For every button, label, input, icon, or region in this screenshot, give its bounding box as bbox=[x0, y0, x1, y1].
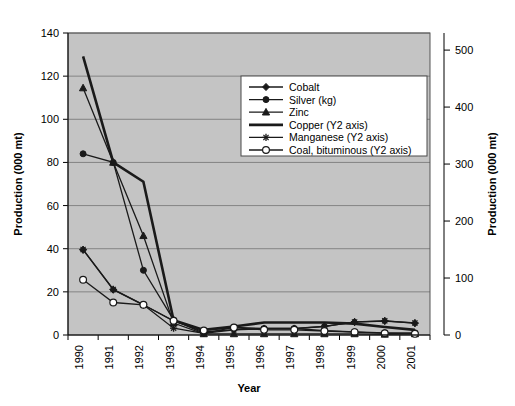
data-point-marker bbox=[110, 286, 117, 293]
star-icon bbox=[262, 134, 269, 141]
legend-label: Cobalt bbox=[289, 81, 319, 93]
legend-label: Coal, bituminous (Y2 axis) bbox=[289, 144, 412, 156]
open-circle-icon bbox=[263, 147, 270, 154]
legend-label: Copper (Y2 axis) bbox=[289, 119, 368, 131]
data-point-marker bbox=[261, 326, 268, 333]
data-point-marker bbox=[321, 328, 328, 335]
x-axis-tick-label: 1993 bbox=[164, 345, 176, 369]
data-point-marker bbox=[231, 324, 238, 331]
y-axis-left-tick-label: 0 bbox=[53, 329, 59, 341]
x-axis-tick-label: 1998 bbox=[314, 345, 326, 369]
y-axis-left-tick-label: 20 bbox=[47, 286, 59, 298]
data-point-marker bbox=[170, 325, 177, 332]
data-point-marker bbox=[140, 267, 146, 273]
x-axis-tick-label: 2000 bbox=[375, 345, 387, 369]
legend-label: Zinc bbox=[289, 106, 309, 118]
x-axis-tick-label: 1996 bbox=[254, 345, 266, 369]
data-point-marker bbox=[263, 97, 269, 103]
y-axis-right-tick-label: 100 bbox=[455, 272, 473, 284]
data-point-marker bbox=[381, 317, 388, 324]
y-axis-left-tick-label: 120 bbox=[41, 70, 59, 82]
x-axis-tick-label: 2001 bbox=[405, 345, 417, 369]
chart-legend: CobaltSilver (kg)ZincCopper (Y2 axis)Man… bbox=[241, 76, 427, 156]
data-point-marker bbox=[381, 330, 388, 337]
data-point-marker bbox=[80, 276, 87, 283]
y-axis-left-title: Production (000 mt) bbox=[12, 132, 24, 236]
y-axis-right-tick-label: 200 bbox=[455, 215, 473, 227]
y-axis-right-title: Production (000 mt) bbox=[486, 132, 498, 236]
data-point-marker bbox=[79, 246, 86, 253]
y-axis-left-tick-label: 100 bbox=[41, 113, 59, 125]
y-axis-right-tick-label: 400 bbox=[455, 101, 473, 113]
y-axis-left-tick-label: 140 bbox=[41, 27, 59, 39]
y-axis-right-tick-label: 300 bbox=[455, 158, 473, 170]
x-axis-tick-label: 1999 bbox=[345, 345, 357, 369]
data-point-marker bbox=[80, 151, 86, 157]
x-axis-tick-label: 1990 bbox=[73, 345, 85, 369]
x-axis-tick-label: 1992 bbox=[133, 345, 145, 369]
data-point-marker bbox=[263, 147, 270, 154]
x-axis-title: Year bbox=[237, 382, 261, 394]
data-point-marker bbox=[291, 326, 298, 333]
y-axis-left-tick-label: 80 bbox=[47, 156, 59, 168]
data-point-marker bbox=[262, 134, 269, 141]
line-chart: 020406080100120140 0100200300400500 1990… bbox=[0, 0, 515, 406]
legend-label: Manganese (Y2 axis) bbox=[289, 131, 388, 143]
chart-container: 020406080100120140 0100200300400500 1990… bbox=[0, 0, 515, 406]
x-axis-tick-label: 1995 bbox=[224, 345, 236, 369]
circle-icon bbox=[263, 97, 269, 103]
y-axis-right-tick-label: 500 bbox=[455, 44, 473, 56]
legend-label: Silver (kg) bbox=[289, 94, 336, 106]
data-point-marker bbox=[351, 318, 358, 325]
y-axis-left-tick-label: 40 bbox=[47, 243, 59, 255]
data-point-marker bbox=[411, 319, 418, 326]
y-axis-right-tick-label: 0 bbox=[455, 329, 461, 341]
data-point-marker bbox=[412, 330, 419, 337]
data-point-marker bbox=[200, 327, 207, 334]
data-point-marker bbox=[140, 301, 147, 308]
y-axis-left-tick-label: 60 bbox=[47, 200, 59, 212]
x-axis-tick-label: 1997 bbox=[284, 345, 296, 369]
x-axis-tick-label: 1994 bbox=[194, 345, 206, 369]
x-axis-tick-label: 1991 bbox=[103, 345, 115, 369]
data-point-marker bbox=[110, 299, 117, 306]
data-point-marker bbox=[170, 317, 177, 324]
